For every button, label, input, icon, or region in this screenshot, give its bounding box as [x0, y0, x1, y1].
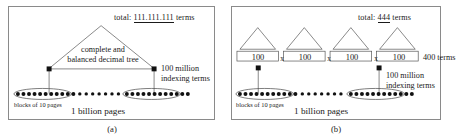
term-box-value-2: 100 — [284, 54, 326, 62]
term-box-value-4: 100 — [378, 54, 420, 62]
page-dot-strip — [14, 88, 190, 99]
panel-a-pages-label: 1 billion pages — [71, 107, 125, 117]
panel-b-total-prefix: total: — [358, 13, 378, 22]
multiply-separator-1: x — [280, 56, 285, 63]
decimal-tree-label-line2: balanced decimal tree — [51, 55, 155, 65]
panel-b-total-number: 444 — [378, 13, 391, 23]
panel-b-indexing-line2: indexing terms — [386, 81, 435, 91]
panel-a-total-prefix: total: — [114, 13, 134, 22]
panel-b-blocks-label: blocks of 10 pages — [236, 102, 284, 109]
decimal-tree-label-line1: complete and — [51, 45, 155, 55]
caption-a: (a) — [92, 124, 132, 134]
subtree-triangle-3 — [333, 28, 369, 50]
subtree-triangle-4 — [380, 28, 416, 50]
panel-b-connector-lines — [258, 68, 379, 94]
panel-b-indexing-terms-label: 100 million indexing terms — [386, 71, 435, 92]
subtree-triangle-1 — [240, 28, 276, 50]
panel-a: total: 111.111.111 terms complete and ba… — [8, 6, 215, 120]
panel-a-total-suffix: terms — [174, 13, 195, 22]
multiply-separator-3: x — [374, 56, 379, 63]
term-box-value-3: 100 — [331, 54, 373, 62]
panel-b-indexing-line1: 100 million — [386, 71, 435, 81]
panel-a-indexing-line1: 100 million — [161, 64, 210, 74]
panel-a-total-number: 111.111.111 — [134, 13, 174, 23]
panel-b-pages-label: 1 billion pages — [294, 107, 348, 117]
panel-b-leaf-nodes — [256, 65, 382, 70]
panel-b-total-label: total: 444 terms — [358, 14, 411, 23]
panel-b: total: 444 terms 100 100 100 100 x x x 4… — [231, 6, 441, 120]
subtree-triangles — [240, 28, 415, 50]
decimal-tree-label: complete and balanced decimal tree — [51, 45, 155, 66]
subtree-triangle-2 — [286, 28, 322, 50]
caption-b: (b) — [316, 124, 356, 134]
panel-a-indexing-line2: indexing terms — [161, 74, 210, 84]
panel-b-total-suffix: terms — [390, 13, 411, 22]
term-box-value-1: 100 — [237, 54, 279, 62]
panel-a-blocks-label: blocks of 10 pages — [14, 102, 62, 109]
panel-a-total-label: total: 111.111.111 terms — [114, 14, 195, 23]
panel-b-terms-label: 400 terms — [423, 54, 456, 63]
panel-a-indexing-terms-label: 100 million indexing terms — [161, 64, 210, 85]
multiply-separator-2: x — [327, 56, 332, 63]
